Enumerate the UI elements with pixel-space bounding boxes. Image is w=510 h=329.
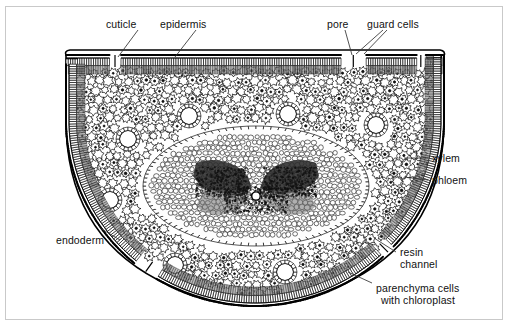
label-guard-cells: guard cells bbox=[367, 18, 419, 30]
label-phloem: phloem bbox=[432, 174, 467, 186]
label-parenchyma-line2: with chloroplast bbox=[381, 294, 455, 307]
label-endoderm: endoderm bbox=[56, 234, 104, 246]
pine-needle-cross-section bbox=[0, 0, 510, 329]
label-pore: pore bbox=[327, 18, 348, 30]
label-resin-channel-line2: channel bbox=[400, 258, 437, 271]
central-cell bbox=[252, 192, 260, 200]
stele bbox=[146, 129, 366, 243]
label-parenchyma-line1: parenchyma cells bbox=[376, 282, 459, 295]
label-resin-channel-line1: resin bbox=[400, 246, 423, 259]
label-xylem: xylem bbox=[432, 152, 460, 164]
label-cuticle: cuticle bbox=[106, 18, 136, 30]
label-epidermis: epidermis bbox=[160, 18, 206, 30]
